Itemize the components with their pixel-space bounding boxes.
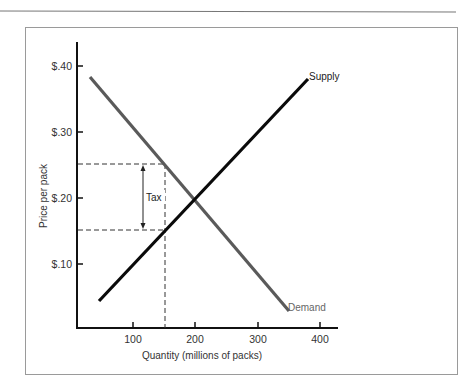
x-axis-title: Quantity (millions of packs) [142,350,262,361]
y-tick-label: $.30 [52,126,73,138]
tax-label: Tax [146,192,162,203]
supply-curve [99,79,308,301]
top-rule [0,11,456,12]
demand-label: Demand [288,302,326,313]
demand-curve [90,77,289,311]
supply-label: Supply [309,71,340,82]
y-tick-label: $.20 [52,192,73,204]
y-axis-title: Price per pack [38,163,49,228]
x-tick-label: 200 [186,333,204,345]
x-tick-label: 100 [124,333,142,345]
y-tick-label: $.40 [52,60,73,72]
x-tick-label: 300 [249,333,267,345]
supply-demand-chart: $.40 $.30 $.20 $.10 100 200 300 400 Quan… [0,0,475,386]
y-tick-label: $.10 [52,258,73,270]
x-tick-label: 400 [311,333,329,345]
